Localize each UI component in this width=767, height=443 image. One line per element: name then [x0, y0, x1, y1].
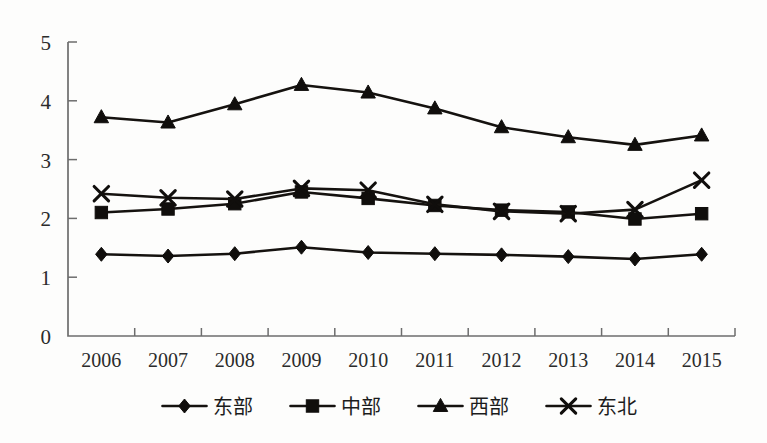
legend-item-东部[interactable]: 东部 [163, 396, 253, 418]
chart-legend: 东部中部西部东北 [163, 396, 637, 418]
chart-series-layer [94, 77, 709, 266]
chart-axes [68, 42, 735, 336]
legend-item-label: 中部 [341, 396, 381, 418]
series-line [101, 180, 701, 214]
data-point-marker-triangle [94, 110, 108, 123]
data-point-marker-diamond [362, 246, 373, 260]
data-point-marker-diamond [296, 240, 307, 254]
series-西部 [94, 77, 709, 150]
series-东北 [94, 173, 709, 221]
data-point-marker-triangle [694, 128, 708, 141]
data-point-marker-diamond [563, 250, 574, 264]
y-axis-tick-label: 0 [41, 325, 52, 349]
series-中部 [95, 186, 708, 225]
x-axis-tick-label: 2008 [215, 349, 255, 371]
x-axis-tick-label: 2007 [148, 349, 188, 371]
data-point-marker-diamond [179, 399, 190, 413]
y-axis-tick-label: 2 [41, 207, 52, 231]
x-axis-tick-label: 2006 [81, 349, 121, 371]
data-point-marker-square [162, 203, 174, 215]
line-chart: 2006200720082009201020112012201320142015… [0, 0, 767, 443]
x-axis-tick-label: 2010 [348, 349, 388, 371]
data-point-marker-diamond [96, 247, 107, 261]
y-axis-tick-label: 5 [41, 31, 52, 55]
x-axis-tick-label: 2009 [281, 349, 321, 371]
series-line [101, 247, 701, 259]
data-point-marker-diamond [162, 249, 173, 263]
data-point-marker-square [695, 207, 707, 219]
y-axis-tick-label: 4 [41, 90, 52, 114]
axis-spine [68, 42, 735, 336]
data-point-marker-diamond [496, 248, 507, 262]
x-axis-tick-label: 2011 [415, 349, 454, 371]
y-axis-tick-label: 1 [41, 266, 52, 290]
data-point-marker-cross-x [694, 173, 708, 187]
x-axis-tick-label: 2014 [615, 349, 655, 371]
legend-item-label: 东部 [213, 396, 253, 418]
y-axis-tick-label: 3 [41, 149, 52, 173]
legend-item-西部[interactable]: 西部 [419, 396, 509, 418]
x-axis-tick-label: 2013 [548, 349, 588, 371]
legend-item-东北[interactable]: 东北 [547, 396, 637, 418]
chart-canvas: 2006200720082009201020112012201320142015… [0, 0, 767, 443]
x-axis-tick-label: 2015 [682, 349, 722, 371]
legend-item-label: 东北 [597, 396, 637, 418]
data-point-marker-diamond [696, 247, 707, 261]
series-东部 [96, 240, 708, 266]
x-axis-tick-label: 2012 [482, 349, 522, 371]
data-point-marker-square [95, 206, 107, 218]
data-point-marker-triangle [294, 77, 308, 90]
series-line [101, 85, 701, 145]
x-axis-labels: 2006200720082009201020112012201320142015 [81, 349, 721, 371]
data-point-marker-diamond [429, 247, 440, 261]
data-point-marker-diamond [229, 247, 240, 261]
data-point-marker-diamond [629, 252, 640, 266]
data-point-marker-square [306, 400, 318, 412]
y-axis-labels: 012345 [41, 31, 52, 349]
legend-item-label: 西部 [469, 396, 509, 418]
legend-item-中部[interactable]: 中部 [291, 396, 381, 418]
